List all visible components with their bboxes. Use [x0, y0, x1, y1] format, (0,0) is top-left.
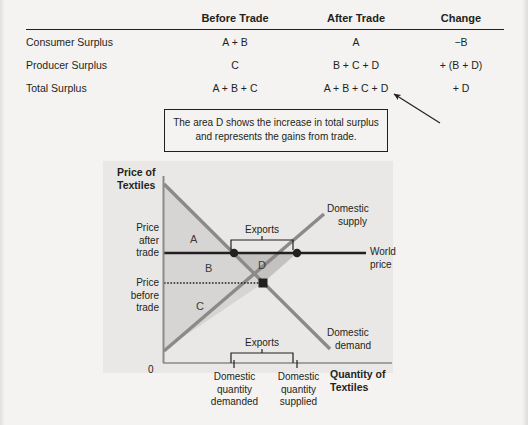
- column-header-after-trade: After Trade: [294, 12, 418, 30]
- column-header-change: Change: [418, 12, 504, 30]
- callout-text-line-2: and represents the gains from trade.: [173, 130, 379, 144]
- row-label-producer-surplus: Producer Surplus: [26, 53, 176, 76]
- exports-label-upper: Exports: [232, 224, 292, 237]
- cell-total-after: A + B + C + D: [294, 76, 418, 99]
- price-before-trade-label: Price before trade: [110, 277, 159, 315]
- table-row: Total Surplus A + B + C A + B + C + D + …: [26, 76, 504, 99]
- x-axis-title-line-1: Quantity of: [330, 368, 385, 380]
- qty-supplied-line-2: quantity: [281, 384, 316, 395]
- cell-producer-after: B + C + D: [294, 53, 418, 76]
- surplus-comparison-table: Before Trade After Trade Change Consumer…: [26, 12, 504, 99]
- cell-producer-change: + (B + D): [418, 53, 504, 76]
- domestic-supply-line-2: supply: [327, 216, 367, 229]
- column-header-blank: [26, 12, 176, 30]
- domestic-supply-label: Domestic supply: [327, 203, 369, 228]
- qty-supplied-line-1: Domestic: [278, 371, 320, 382]
- table-row: Consumer Surplus A + B A −B: [26, 30, 504, 54]
- price-before-trade-line-1: Price: [136, 277, 159, 288]
- figure-page: Before Trade After Trade Change Consumer…: [0, 0, 528, 425]
- cell-consumer-before: A + B: [176, 30, 294, 54]
- x-axis-title: Quantity of Textiles: [330, 368, 400, 393]
- region-label-d: D: [258, 259, 266, 271]
- callout-box: The area D shows the increase in total s…: [164, 109, 388, 152]
- region-label-a: A: [190, 233, 197, 245]
- row-label-consumer-surplus: Consumer Surplus: [26, 30, 176, 54]
- price-after-trade-line-2: after: [139, 235, 159, 246]
- callout-text-line-1: The area D shows the increase in total s…: [173, 116, 379, 130]
- domestic-supply-line-1: Domestic: [327, 203, 369, 214]
- price-after-trade-label: Price after trade: [110, 222, 159, 260]
- cell-consumer-after: A: [294, 30, 418, 54]
- y-axis-title-line-2: Textiles: [117, 179, 155, 191]
- exports-label-lower: Exports: [232, 337, 292, 350]
- y-axis-title-line-1: Price of: [117, 166, 156, 178]
- qty-supplied-line-3: supplied: [280, 396, 317, 407]
- table-header-row: Before Trade After Trade Change: [26, 12, 504, 30]
- qty-demanded-line-3: demanded: [211, 396, 258, 407]
- table-header: Before Trade After Trade Change: [26, 12, 504, 30]
- y-axis-title: Price of Textiles: [117, 166, 163, 191]
- table-row: Producer Surplus C B + C + D + (B + D): [26, 53, 504, 76]
- price-before-trade-line-3: trade: [136, 302, 159, 313]
- domestic-demand-label: Domestic demand: [327, 327, 371, 352]
- row-label-total-surplus: Total Surplus: [26, 76, 176, 99]
- price-before-trade-line-2: before: [131, 290, 159, 301]
- cell-total-change: + D: [418, 76, 504, 99]
- world-price-line-1: World: [370, 246, 396, 257]
- world-price-line-2: price: [370, 259, 392, 270]
- column-header-before-trade: Before Trade: [176, 12, 294, 30]
- cell-consumer-change: −B: [418, 30, 504, 54]
- origin-label: 0: [148, 364, 154, 377]
- domestic-demand-line-1: Domestic: [327, 327, 369, 338]
- table-body: Consumer Surplus A + B A −B Producer Sur…: [26, 30, 504, 100]
- price-after-trade-line-1: Price: [136, 222, 159, 233]
- cell-total-before: A + B + C: [176, 76, 294, 99]
- region-label-b: B: [205, 262, 212, 274]
- cell-producer-before: C: [176, 53, 294, 76]
- domestic-quantity-supplied-label: Domestic quantity supplied: [260, 371, 337, 409]
- qty-demanded-line-1: Domestic: [214, 371, 256, 382]
- qty-demanded-line-2: quantity: [217, 384, 252, 395]
- region-label-c: C: [196, 300, 204, 312]
- world-price-label: World price: [370, 246, 396, 271]
- price-after-trade-line-3: trade: [136, 247, 159, 258]
- domestic-demand-line-2: demand: [327, 340, 371, 353]
